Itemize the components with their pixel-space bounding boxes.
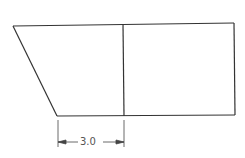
technical-drawing [0, 0, 245, 158]
arrowhead-left-icon [58, 140, 66, 144]
outline [13, 23, 235, 116]
slanted-left-edge [13, 26, 57, 116]
bottom-edge [57, 115, 235, 116]
arrowhead-right-icon [116, 140, 124, 144]
middle-divider [123, 24, 124, 116]
dimension-label: 3.0 [79, 137, 97, 147]
right-edge [234, 23, 235, 115]
